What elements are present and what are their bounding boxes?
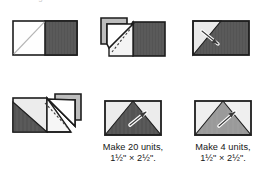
- step-3-press-first-corner: [192, 20, 250, 56]
- step-1-svg: [12, 20, 78, 56]
- step-1-layout-square-on-rectangle: [12, 20, 78, 56]
- illustration-page: making the units: [0, 0, 256, 177]
- step-5-svg: [104, 100, 162, 136]
- dark-striped-rectangle: [45, 21, 77, 55]
- caption-20-units-line1: Make 20 units,: [103, 142, 163, 152]
- caption-4-units-line2: 1½" × 2½".: [186, 153, 256, 164]
- caption-4-units: Make 4 units, 1½" × 2½".: [186, 142, 256, 165]
- cropped-heading-text: making the units: [16, 0, 77, 2]
- step-5-finished-dark-flying-geese-unit: [104, 100, 162, 136]
- cropped-heading-remnant: making the units: [0, 0, 256, 7]
- dark-striped-rectangle: [133, 22, 165, 56]
- step-6-svg: [194, 100, 252, 136]
- step-3-svg: [192, 20, 250, 56]
- caption-4-units-line1: Make 4 units,: [195, 142, 250, 152]
- step-6-finished-medium-flying-geese-unit: [194, 100, 252, 136]
- caption-20-units: Make 20 units, 1½" × 2½".: [96, 142, 170, 165]
- step-4-svg: [12, 92, 86, 142]
- step-4-sew-and-fold-second-corner: [12, 92, 86, 142]
- step-2-sew-and-fold-first-corner: [97, 12, 167, 60]
- caption-20-units-line2: 1½" × 2½".: [96, 153, 170, 164]
- step-2-svg: [97, 12, 167, 60]
